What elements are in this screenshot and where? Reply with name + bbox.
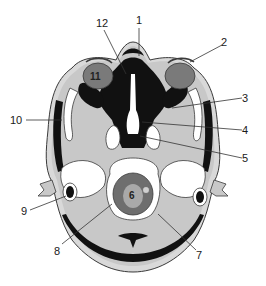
label-3: 3 [242, 92, 248, 104]
label-9: 9 [21, 205, 27, 217]
vertebral-artery [143, 187, 150, 194]
axial-head-section-diagram: 11 6 1 2 3 4 5 7 8 9 10 12 [0, 0, 266, 286]
label-4: 4 [242, 124, 248, 136]
label-7: 7 [196, 249, 202, 261]
label-1: 1 [136, 14, 142, 26]
leader-2 [190, 45, 222, 62]
left-mastoid-air [66, 186, 74, 198]
label-2: 2 [221, 36, 227, 48]
label-10: 10 [10, 114, 22, 126]
label-12: 12 [96, 17, 108, 29]
label-6-inline: 6 [129, 190, 135, 201]
label-5: 5 [242, 152, 248, 164]
label-11-inline: 11 [90, 71, 101, 82]
right-mastoid-air [196, 191, 204, 203]
label-8: 8 [54, 245, 60, 257]
right-globe [165, 63, 195, 89]
